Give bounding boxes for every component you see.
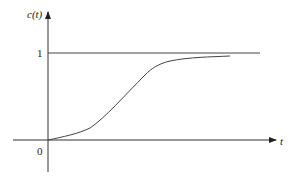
- step-response-diagram: c(t) 1 0 t: [0, 0, 293, 177]
- tick-label-one: 1: [37, 47, 43, 59]
- x-axis-label: t: [280, 135, 284, 147]
- response-curve: [48, 56, 230, 140]
- tick-label-zero: 0: [37, 145, 43, 157]
- y-axis-label: c(t): [27, 8, 43, 21]
